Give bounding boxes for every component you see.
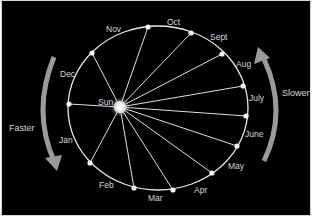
slower-arrow xyxy=(254,47,276,161)
orbit-point xyxy=(145,24,150,29)
month-label: Sept xyxy=(210,32,228,42)
radius-line xyxy=(120,107,212,173)
month-label: Nov xyxy=(106,24,122,34)
orbit-point xyxy=(209,170,214,175)
month-label: Dec xyxy=(60,69,76,79)
radius-line xyxy=(120,107,246,116)
orbit-point xyxy=(240,83,245,88)
month-label: Apr xyxy=(194,185,207,195)
radius-line xyxy=(120,33,191,107)
orbit-point xyxy=(234,143,239,148)
month-label: Jan xyxy=(59,135,73,145)
radius-line xyxy=(120,107,173,190)
orbit-point xyxy=(243,113,248,118)
month-label: May xyxy=(228,161,245,171)
faster-label: Faster xyxy=(9,123,35,133)
radius-line xyxy=(120,107,237,146)
slower-label: Slower xyxy=(282,88,310,98)
orbit-diagram: Faster Slower NovOctSeptAugJulyJuneMayAp… xyxy=(1,0,311,216)
month-label: July xyxy=(249,93,265,103)
orbit-point xyxy=(89,50,94,55)
orbit-point xyxy=(188,30,193,35)
month-label: Aug xyxy=(236,59,251,69)
month-label: Mar xyxy=(148,193,163,203)
orbit-ellipse xyxy=(68,26,248,190)
orbit-point xyxy=(66,101,71,106)
sun-label: Sun xyxy=(98,97,113,107)
diagram-canvas: Faster Slower NovOctSeptAugJulyJuneMayAp… xyxy=(2,1,312,217)
radius-lines xyxy=(69,27,246,190)
sun-icon xyxy=(114,101,127,114)
month-label: Feb xyxy=(99,180,114,190)
radius-line xyxy=(120,107,134,188)
month-label: Oct xyxy=(167,17,181,27)
radius-line xyxy=(90,107,120,163)
orbit-point xyxy=(170,187,175,192)
month-label: June xyxy=(245,129,264,139)
orbit-point xyxy=(87,160,92,165)
radius-line xyxy=(120,86,243,107)
orbit-point xyxy=(219,51,224,56)
orbit-point xyxy=(131,185,136,190)
